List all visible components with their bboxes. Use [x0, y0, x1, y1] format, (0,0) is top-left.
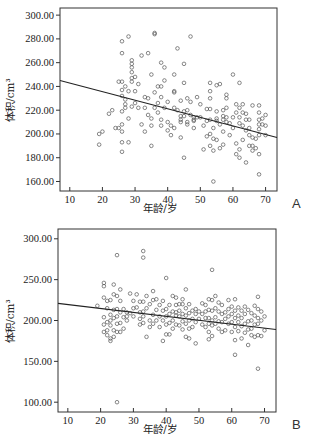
- data-point: [238, 148, 242, 152]
- data-point: [233, 338, 237, 342]
- data-point: [238, 81, 242, 85]
- y-tick-label: 300.00: [23, 233, 52, 244]
- data-point: [230, 305, 234, 309]
- data-point: [107, 112, 111, 116]
- data-point: [122, 307, 126, 311]
- data-point: [179, 120, 183, 124]
- data-point: [109, 324, 113, 328]
- data-point: [199, 102, 203, 106]
- data-point: [151, 322, 155, 326]
- data-point: [168, 303, 172, 307]
- data-point: [230, 312, 234, 316]
- data-point: [143, 130, 147, 134]
- data-point: [176, 47, 180, 51]
- data-point: [179, 136, 183, 140]
- data-point: [112, 283, 116, 287]
- x-tick-label: 30: [130, 194, 141, 205]
- data-point: [227, 307, 231, 311]
- data-point: [215, 110, 219, 114]
- data-point: [105, 329, 109, 333]
- data-point: [182, 156, 186, 160]
- data-point: [195, 95, 199, 99]
- data-point: [214, 306, 218, 310]
- data-point: [233, 309, 237, 313]
- data-point: [97, 132, 101, 136]
- data-point: [118, 288, 122, 292]
- panel-b-y-axis: 100.00150.00200.00250.00300.00: [23, 233, 58, 407]
- data-point: [185, 108, 189, 112]
- data-point: [102, 315, 106, 319]
- data-point: [238, 106, 242, 110]
- data-point: [135, 293, 139, 297]
- figure: 160.00180.00200.00220.00240.00260.00280.…: [0, 0, 318, 447]
- data-point: [231, 116, 235, 120]
- data-point: [185, 97, 189, 101]
- data-point: [237, 320, 241, 324]
- data-point: [240, 316, 244, 320]
- data-point: [101, 130, 105, 134]
- data-point: [166, 100, 170, 104]
- data-point: [133, 101, 137, 105]
- data-point: [145, 294, 149, 298]
- data-point: [123, 106, 127, 110]
- data-point: [243, 331, 247, 335]
- data-point: [251, 104, 255, 108]
- data-point: [223, 317, 227, 321]
- data-point: [110, 108, 114, 112]
- panel-b-label: B: [292, 417, 301, 432]
- data-point: [128, 292, 132, 296]
- panel-a-scatter-plot: 160.00180.00200.00220.00240.00260.00280.…: [4, 8, 301, 214]
- data-point: [197, 310, 201, 314]
- data-point: [112, 335, 116, 339]
- data-point: [118, 299, 122, 303]
- data-point: [254, 146, 258, 150]
- data-point: [181, 320, 185, 324]
- data-point: [159, 95, 163, 99]
- x-tick-label: 70: [260, 194, 271, 205]
- data-point: [234, 142, 238, 146]
- data-point: [123, 85, 127, 89]
- data-point: [127, 35, 131, 39]
- data-point: [263, 315, 267, 319]
- data-point: [225, 93, 229, 97]
- data-point: [208, 132, 212, 136]
- data-point: [109, 319, 113, 323]
- x-tick-label: 50: [195, 194, 206, 205]
- data-point: [230, 330, 234, 334]
- data-point: [257, 173, 261, 177]
- panel-b-x-axis-title: 年龄/岁: [143, 423, 177, 435]
- data-point: [148, 325, 152, 329]
- panel-a-y-axis: 160.00180.00200.00220.00240.00260.00280.…: [25, 10, 60, 187]
- data-point: [96, 304, 100, 308]
- data-point: [214, 294, 218, 298]
- y-tick-label: 200.00: [25, 128, 54, 139]
- data-point: [102, 296, 106, 300]
- data-point: [208, 81, 212, 85]
- data-point: [163, 79, 167, 83]
- data-point: [192, 126, 196, 130]
- data-point: [130, 70, 134, 74]
- data-point: [187, 311, 191, 315]
- data-point: [256, 322, 260, 326]
- data-point: [97, 143, 101, 147]
- data-point: [233, 325, 237, 329]
- data-point: [240, 337, 244, 341]
- data-point: [105, 333, 109, 337]
- data-point: [244, 161, 248, 165]
- x-tick-label: 20: [97, 194, 108, 205]
- data-point: [174, 296, 178, 300]
- data-point: [208, 89, 212, 93]
- data-point: [231, 73, 235, 77]
- data-point: [122, 327, 126, 331]
- data-point: [194, 312, 198, 316]
- data-point: [133, 75, 137, 79]
- data-point: [227, 315, 231, 319]
- data-point: [218, 82, 222, 86]
- data-point: [221, 108, 225, 112]
- data-point: [234, 102, 238, 106]
- x-tick-label: 20: [95, 415, 106, 426]
- data-point: [205, 135, 209, 139]
- panel-b-y-axis-title: 体积/cm³: [4, 299, 16, 343]
- data-point: [233, 297, 237, 301]
- data-point: [254, 137, 258, 141]
